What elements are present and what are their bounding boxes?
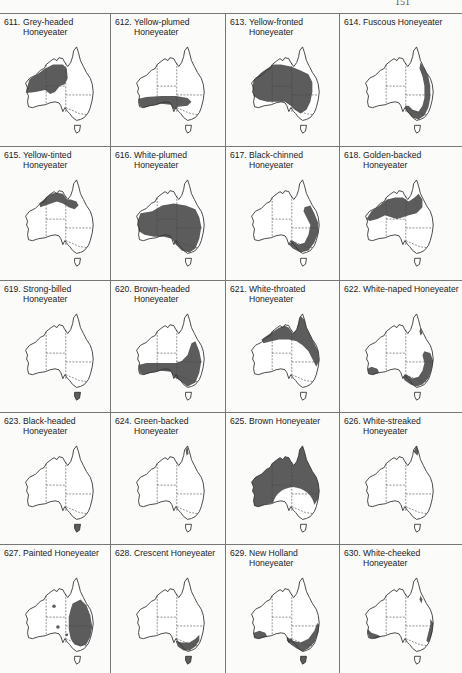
species-name: Golden-backed Honeyeater [363, 150, 460, 170]
species-name: New Holland Honeyeater [249, 548, 337, 568]
australia-distribution-map [117, 441, 215, 541]
species-number: 626. [344, 416, 363, 436]
australia-distribution-map [117, 309, 215, 409]
species-number: 624. [115, 416, 134, 436]
species-number: 620. [115, 284, 134, 304]
species-number: 625. [230, 416, 249, 426]
australia-distribution-map [346, 441, 444, 541]
species-name: Black-headed Honeyeater [23, 416, 108, 436]
species-panel-629: 629.New Holland Honeyeater [226, 545, 340, 673]
species-number: 616. [115, 150, 134, 170]
species-panel-620: 620.Brown-headed Honeyeater [111, 281, 226, 413]
species-name: Crescent Honeyeater [134, 548, 223, 558]
species-number: 629. [230, 548, 249, 568]
australia-distribution-map [232, 175, 330, 275]
species-number: 621. [230, 284, 249, 304]
species-panel-626: 626.White-streaked Honeyeater [340, 413, 462, 545]
australia-distribution-map [232, 573, 330, 673]
australia-distribution-map [346, 309, 444, 409]
species-panel-621: 621.White-throated Honeyeater [226, 281, 340, 413]
species-panel-623: 623.Black-headed Honeyeater [0, 413, 111, 545]
species-name: Brown Honeyeater [249, 416, 337, 426]
australia-distribution-map [6, 573, 104, 673]
species-number: 627. [4, 548, 23, 558]
species-name: Strong-billed Honeyeater [23, 284, 108, 304]
species-panel-613: 613.Yellow-fronted Honeyeater [226, 14, 340, 147]
australia-distribution-map [6, 441, 104, 541]
species-number: 613. [230, 17, 249, 37]
distribution-map-grid: 611.Grey-headed Honeyeater 612.Yellow-pl… [0, 13, 462, 673]
species-number: 628. [115, 548, 134, 558]
species-number: 617. [230, 150, 249, 170]
species-panel-622: 622.White-naped Honeyeater [340, 281, 462, 413]
species-number: 618. [344, 150, 363, 170]
species-name: White-naped Honeyeater [363, 284, 460, 294]
species-name: Black-chinned Honeyeater [249, 150, 337, 170]
species-name: Green-backed Honeyeater [134, 416, 223, 436]
species-number: 615. [4, 150, 23, 170]
species-panel-630: 630.White-cheeked Honeyeater [340, 545, 462, 673]
australia-distribution-map [232, 42, 330, 142]
species-number: 611. [4, 17, 23, 37]
species-name: White-cheeked Honeyeater [363, 548, 460, 568]
australia-distribution-map [6, 42, 104, 142]
species-name: Fuscous Honeyeater [363, 17, 460, 27]
australia-distribution-map [117, 573, 215, 673]
species-panel-612: 612.Yellow-plumed Honeyeater [111, 14, 226, 147]
species-name: White-streaked Honeyeater [363, 416, 460, 436]
species-panel-624: 624.Green-backed Honeyeater [111, 413, 226, 545]
species-panel-617: 617.Black-chinned Honeyeater [226, 147, 340, 281]
species-name: Yellow-plumed Honeyeater [134, 17, 223, 37]
australia-distribution-map [346, 573, 444, 673]
australia-distribution-map [117, 42, 215, 142]
species-panel-614: 614.Fuscous Honeyeater [340, 14, 462, 147]
species-panel-619: 619.Strong-billed Honeyeater [0, 281, 111, 413]
species-name: White-plumed Honeyeater [134, 150, 223, 170]
australia-distribution-map [6, 175, 104, 275]
australia-distribution-map [6, 309, 104, 409]
species-name: White-throated Honeyeater [249, 284, 337, 304]
species-name: Yellow-fronted Honeyeater [249, 17, 337, 37]
species-panel-625: 625.Brown Honeyeater [226, 413, 340, 545]
species-number: 622. [344, 284, 363, 294]
species-panel-627: 627.Painted Honeyeater [0, 545, 111, 673]
australia-distribution-map [232, 309, 330, 409]
species-number: 612. [115, 17, 134, 37]
australia-distribution-map [346, 175, 444, 275]
page-number: 151 [395, 0, 410, 7]
species-name: Brown-headed Honeyeater [134, 284, 223, 304]
species-panel-611: 611.Grey-headed Honeyeater [0, 14, 111, 147]
species-number: 619. [4, 284, 23, 304]
species-number: 630. [344, 548, 363, 568]
australia-distribution-map [117, 175, 215, 275]
species-number: 623. [4, 416, 23, 436]
species-panel-618: 618.Golden-backed Honeyeater [340, 147, 462, 281]
species-name: Grey-headed Honeyeater [23, 17, 108, 37]
species-panel-628: 628.Crescent Honeyeater [111, 545, 226, 673]
species-panel-615: 615.Yellow-tinted Honeyeater [0, 147, 111, 281]
species-panel-616: 616.White-plumed Honeyeater [111, 147, 226, 281]
species-name: Painted Honeyeater [23, 548, 108, 558]
australia-distribution-map [346, 42, 444, 142]
australia-distribution-map [232, 441, 330, 541]
species-number: 614. [344, 17, 363, 27]
species-name: Yellow-tinted Honeyeater [23, 150, 108, 170]
